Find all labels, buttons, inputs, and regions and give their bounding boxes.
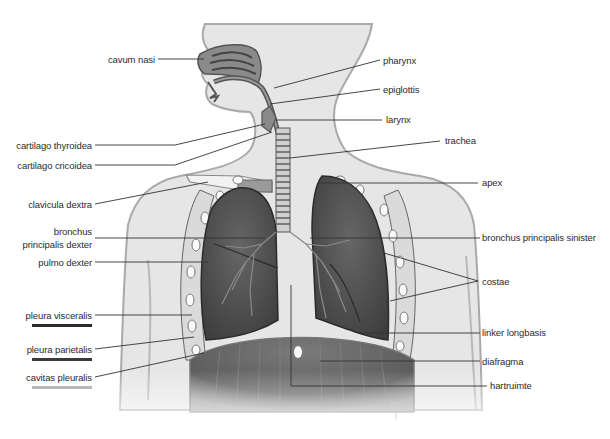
label-cartilago-cricoidea: cartilago cricoidea	[17, 160, 92, 171]
label-pleura-visceralis: pleura visceralis	[26, 310, 92, 321]
label-pharynx: pharynx	[383, 55, 416, 66]
label-larynx: larynx	[386, 114, 411, 125]
pleura-parietalis-legend-line	[32, 358, 92, 361]
label-bronchus-principalis-dexter-line2: principalis dexter	[23, 239, 92, 250]
label-diafragma: diafragma	[482, 356, 523, 367]
respiratory-diagram: cavum nasi cartilago thyroidea cartilago…	[0, 0, 610, 439]
trachea-rings	[276, 128, 290, 232]
label-hartruimte: hartruimte	[490, 380, 532, 391]
label-cavum-nasi: cavum nasi	[108, 54, 155, 65]
pleura-visceralis-legend-line	[32, 324, 92, 327]
label-apex: apex	[482, 177, 502, 188]
label-cartilago-thyroidea: cartilago thyroidea	[16, 140, 92, 151]
label-pleura-parietalis: pleura parietalis	[27, 344, 92, 355]
label-clavicula-dextra: clavicula dextra	[28, 199, 92, 210]
label-costae: costae	[482, 276, 509, 287]
label-pulmo-dexter: pulmo dexter	[38, 257, 92, 268]
label-linker-longbasis: linker longbasis	[482, 327, 546, 338]
label-bronchus-principalis-dexter-line1: bronchus	[54, 226, 92, 237]
label-bronchus-principalis-sinister: bronchus principalis sinister	[482, 232, 596, 243]
label-trachea: trachea	[445, 135, 476, 146]
cavitas-pleuralis-legend-line	[32, 386, 92, 389]
label-epiglottis: epiglottis	[383, 84, 420, 95]
label-cavitas-pleuralis: cavitas pleuralis	[26, 372, 92, 383]
